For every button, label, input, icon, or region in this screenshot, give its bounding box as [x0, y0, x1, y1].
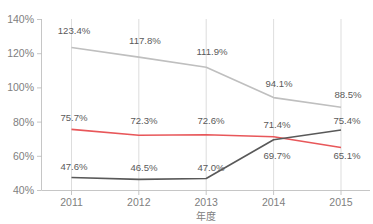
y-axis-tick-label: 120% — [7, 47, 34, 59]
x-axis-tick-label: 2012 — [127, 196, 151, 208]
x-axis-title: 年度 — [196, 210, 216, 222]
data-label-middle: 72.3% — [130, 115, 158, 126]
y-axis-tick-label: 60% — [13, 150, 34, 162]
data-label-upper: 88.5% — [334, 89, 362, 100]
y-axis-tick-label: 140% — [7, 13, 34, 25]
chart-canvas: 140% 120% 100% 80% 60% 40% 2011 2012 201… — [0, 0, 373, 224]
data-label-upper: 123.4% — [58, 25, 91, 36]
data-label-lower: 69.7% — [263, 150, 291, 161]
line-chart-figure: 140% 120% 100% 80% 60% 40% 2011 2012 201… — [0, 0, 373, 224]
x-axis-tick-label: 2015 — [329, 196, 353, 208]
data-label-upper: 111.9% — [196, 46, 228, 57]
data-label-middle: 75.7% — [60, 112, 88, 123]
data-label-middle: 72.6% — [197, 115, 225, 126]
x-axis-tick-label: 2011 — [60, 196, 83, 208]
x-axis-tick-label: 2014 — [262, 196, 286, 208]
y-axis-tick-label: 80% — [13, 116, 34, 128]
x-axis-tick-label: 2013 — [195, 196, 219, 208]
data-label-upper: 94.1% — [265, 78, 293, 89]
y-axis-tick-label: 40% — [13, 184, 34, 196]
data-label-middle: 65.1% — [333, 150, 361, 161]
data-label-lower: 47.0% — [197, 162, 225, 173]
data-label-lower: 75.4% — [333, 115, 361, 126]
y-axis-tick-label: 100% — [7, 81, 34, 93]
data-label-upper: 117.8% — [129, 35, 161, 46]
data-label-lower: 47.6% — [60, 161, 88, 172]
data-label-lower: 46.5% — [130, 162, 158, 173]
data-label-middle: 71.4% — [263, 119, 291, 130]
